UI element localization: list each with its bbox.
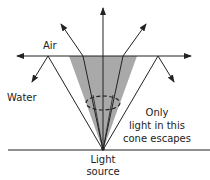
air-label: Air <box>43 40 58 51</box>
refracted-ray-left <box>61 24 83 56</box>
cone-note-line2: light in this <box>129 120 185 131</box>
total-internal-reflection-diagram: Air Water Only light in this cone escape… <box>0 0 210 180</box>
reflected-ray-left <box>32 56 48 82</box>
water-label: Water <box>7 92 37 103</box>
light-source-point <box>101 147 105 151</box>
source-label-line1: Light <box>91 154 116 165</box>
cone-note-line3: cone escapes <box>123 133 191 144</box>
cone-note-line1: Only <box>146 107 169 118</box>
reflected-ray-right <box>158 56 174 82</box>
source-label-line2: source <box>86 166 119 177</box>
refracted-ray-right <box>123 24 146 56</box>
